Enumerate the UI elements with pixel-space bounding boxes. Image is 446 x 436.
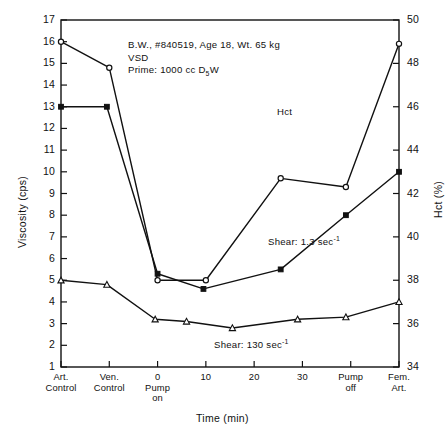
bottom-axis-ticks xyxy=(61,361,399,367)
y-tick-left-17: 17 xyxy=(27,13,55,25)
data-point-1-4 xyxy=(278,267,283,272)
y-tick-left-14: 14 xyxy=(27,78,55,90)
data-point-2-5 xyxy=(295,316,301,322)
data-point-1-3 xyxy=(201,287,206,292)
y-tick-left-5: 5 xyxy=(27,273,55,285)
y-tick-left-10: 10 xyxy=(27,165,55,177)
series-1 xyxy=(59,104,402,291)
data-point-2-3 xyxy=(183,318,189,324)
data-point-1-0 xyxy=(59,104,64,109)
y-tick-left-16: 16 xyxy=(27,35,55,47)
data-point-2-7 xyxy=(396,299,402,305)
y-tick-left-8: 8 xyxy=(27,208,55,220)
series-label-hct: Hct xyxy=(277,106,292,117)
annotation-line-3-suffix: W xyxy=(210,64,219,75)
y-tick-left-15: 15 xyxy=(27,56,55,68)
y-tick-left-2: 2 xyxy=(27,338,55,350)
y-tick-right-40: 40 xyxy=(407,230,419,242)
data-point-0-1 xyxy=(107,65,112,70)
y-tick-right-50: 50 xyxy=(407,13,419,25)
y-tick-left-1: 1 xyxy=(27,360,55,372)
data-point-2-6 xyxy=(343,314,349,320)
data-point-0-4 xyxy=(278,176,283,181)
x-tick-label-7: Fem.Art. xyxy=(365,372,433,393)
y-tick-right-48: 48 xyxy=(407,56,419,68)
y-tick-left-11: 11 xyxy=(27,143,55,155)
data-point-2-1 xyxy=(104,281,110,287)
series-label-shear-130-exponent: -1 xyxy=(282,338,289,345)
y-tick-left-9: 9 xyxy=(27,187,55,199)
series-label-shear-130: Shear: 130 sec-1 xyxy=(214,338,289,350)
data-point-1-5 xyxy=(343,213,348,218)
annotation-line-2: VSD xyxy=(128,52,280,65)
data-series-group xyxy=(58,39,402,331)
annotation-line-3-prefix: Prime: 1000 cc D xyxy=(128,64,206,75)
right-axis-ticks xyxy=(393,20,399,367)
patient-annotation: B.W., #840519, Age 18, Wt. 65 kg VSD Pri… xyxy=(128,39,280,81)
x-tick-label-7-line-2: Fem. xyxy=(365,372,433,383)
annotation-line-3: Prime: 1000 cc D5W xyxy=(128,64,280,81)
y-axis-right-title: Hct (%) xyxy=(432,181,444,218)
x-axis-title: Time (min) xyxy=(196,412,249,424)
y-tick-left-13: 13 xyxy=(27,100,55,112)
left-axis-ticks xyxy=(61,20,67,367)
annotation-line-1: B.W., #840519, Age 18, Wt. 65 kg xyxy=(128,39,280,52)
data-point-0-2 xyxy=(155,278,160,283)
data-point-2-0 xyxy=(58,277,64,283)
data-point-1-6 xyxy=(397,169,402,174)
data-point-0-0 xyxy=(58,39,63,44)
x-tick-label-7-line-3: Art. xyxy=(365,383,433,394)
series-label-shear-1p3-text: Shear: 1.3 sec xyxy=(268,236,333,247)
series-label-shear-1p3: Shear: 1.3 sec-1 xyxy=(268,235,340,247)
y-tick-right-46: 46 xyxy=(407,100,419,112)
series-label-shear-1p3-exponent: -1 xyxy=(333,235,340,242)
y-tick-left-7: 7 xyxy=(27,230,55,242)
y-tick-left-12: 12 xyxy=(27,121,55,133)
y-tick-left-4: 4 xyxy=(27,295,55,307)
data-point-2-4 xyxy=(229,325,235,331)
y-tick-left-6: 6 xyxy=(27,252,55,264)
data-point-1-2 xyxy=(155,271,160,276)
data-point-0-5 xyxy=(343,184,348,189)
data-point-0-6 xyxy=(396,41,401,46)
series-2 xyxy=(58,277,402,330)
y-tick-right-42: 42 xyxy=(407,187,419,199)
data-point-0-3 xyxy=(203,278,208,283)
y-tick-left-3: 3 xyxy=(27,317,55,329)
y-tick-right-36: 36 xyxy=(407,317,419,329)
data-point-1-1 xyxy=(104,104,109,109)
x-tick-label-2-line-3: on xyxy=(124,393,192,404)
viscosity-hct-chart: Viscosity (cps) Hct (%) Time (min) B.W.,… xyxy=(0,0,446,436)
y-tick-right-44: 44 xyxy=(407,143,419,155)
series-label-shear-130-text: Shear: 130 sec xyxy=(214,339,282,350)
y-tick-right-38: 38 xyxy=(407,273,419,285)
